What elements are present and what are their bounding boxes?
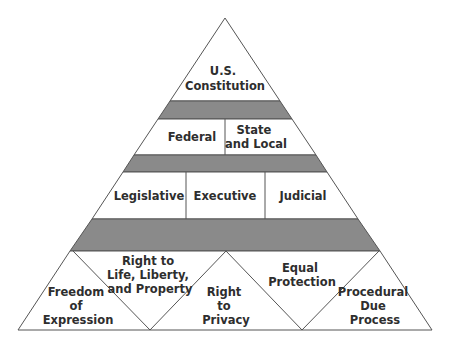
gray-band-1 — [158, 101, 292, 119]
gray-band-3 — [70, 219, 380, 251]
label-federal: Federal — [168, 130, 217, 144]
label-executive: Executive — [194, 189, 257, 203]
label-legislative: Legislative — [114, 189, 185, 203]
constitution-pyramid-diagram: U.S. Constitution Federal State and Loca… — [0, 0, 450, 345]
label-judicial: Judicial — [278, 189, 326, 203]
gray-band-2 — [123, 155, 327, 172]
